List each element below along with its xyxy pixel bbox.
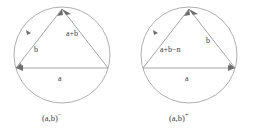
caption-right-superscript: + bbox=[185, 111, 189, 119]
figure-root: b a+b a (a,b)− a+b−n b a (a,b)+ bbox=[0, 0, 255, 132]
arc-arrow-icon bbox=[26, 30, 31, 35]
caption-left: (a,b)− bbox=[42, 114, 62, 123]
edge-label-left: a+b−n bbox=[160, 46, 181, 54]
left-edge-line bbox=[143, 9, 189, 68]
right-edge-arrow-icon bbox=[189, 9, 198, 15]
diagram-panel-left: b a+b a (a,b)− bbox=[0, 0, 127, 132]
right-edge-line bbox=[189, 9, 235, 68]
diagram-panel-right: a+b−n b a (a,b)+ bbox=[127, 0, 254, 132]
right-edge-line bbox=[62, 9, 108, 68]
left-edge-arrow-icon bbox=[57, 9, 63, 16]
diagram-left-graphic bbox=[0, 0, 127, 132]
edge-label-right: b bbox=[206, 37, 210, 45]
edge-label-bottom: a bbox=[58, 75, 62, 83]
left-edge-line bbox=[16, 9, 62, 68]
circle-outline bbox=[141, 7, 237, 103]
edge-label-bottom: a bbox=[185, 75, 189, 83]
left-edge-arrow-icon bbox=[184, 9, 190, 16]
caption-right-base: (a,b) bbox=[169, 113, 185, 123]
circle-outline bbox=[14, 7, 110, 103]
edge-label-left: b bbox=[34, 46, 38, 54]
diagram-right-graphic bbox=[127, 0, 254, 132]
caption-left-superscript: − bbox=[58, 111, 62, 119]
caption-left-base: (a,b) bbox=[42, 113, 58, 123]
right-edge-arrow-icon bbox=[62, 9, 71, 15]
edge-label-right: a+b bbox=[66, 30, 78, 38]
arc-arrow-icon bbox=[153, 30, 158, 35]
caption-right: (a,b)+ bbox=[169, 114, 189, 123]
